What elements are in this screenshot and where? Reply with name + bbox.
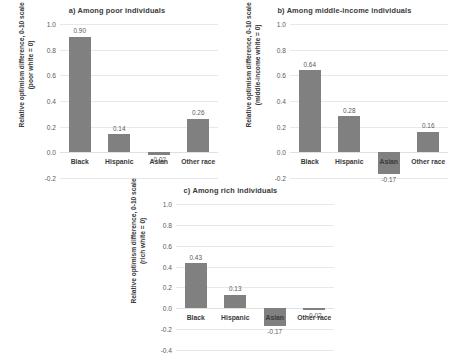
bar <box>108 134 130 152</box>
bar-value-label: 0.13 <box>229 285 241 292</box>
x-axis-category-label: Asian <box>379 158 398 165</box>
bar-value-label: 0.43 <box>190 254 202 261</box>
x-axis-category-label: Hispanic <box>105 158 133 165</box>
bar <box>338 116 360 152</box>
y-axis-tick-label: 0.2 <box>47 123 56 130</box>
x-axis-category-label: Black <box>187 314 205 321</box>
bar <box>224 295 246 309</box>
bar-value-label: 0.16 <box>422 122 434 129</box>
gridline: 0.8 <box>290 50 448 51</box>
x-axis-category-label: Black <box>301 158 319 165</box>
y-axis-tick-label: 0.2 <box>163 284 172 291</box>
gridline: 0.0 <box>290 152 448 153</box>
y-axis-tick-label: 0.0 <box>163 305 172 312</box>
x-axis-category-label: Other race <box>297 314 331 321</box>
y-axis-tick-label: 0.6 <box>163 242 172 249</box>
gridline: -0.4 <box>176 350 334 351</box>
y-axis-tick-label: 0.2 <box>277 123 286 130</box>
panel-c-y-axis-label-line1: Relative optimism difference, 0-10 scale <box>130 178 137 303</box>
bar <box>148 152 170 155</box>
y-axis-tick-label: 0.4 <box>163 263 172 270</box>
bar-value-label: 0.64 <box>304 61 316 68</box>
y-axis-tick-label: 0.8 <box>47 46 56 53</box>
y-axis-tick-label: 0.4 <box>277 98 286 105</box>
bar <box>303 308 325 310</box>
panel-a-y-axis-label-line2: (poor white = 0) <box>27 40 34 89</box>
bar <box>187 119 209 152</box>
panel-c-plot-area: 1.00.80.60.40.20.0-0.2-0.40.43Black0.13H… <box>176 204 334 350</box>
panel-c-y-axis-label: Relative optimism difference, 0-10 scale… <box>130 176 148 306</box>
y-axis-tick-label: 0.6 <box>47 72 56 79</box>
x-axis-category-label: Black <box>71 158 89 165</box>
bar <box>69 37 91 153</box>
chart-panel-b: b) Among middle-income individuals Relat… <box>238 6 451 186</box>
bar-value-label: 0.90 <box>74 27 86 34</box>
panel-a-plot-area: 1.00.80.60.40.20.0-0.20.90Black0.14Hispa… <box>60 24 218 178</box>
panel-b-title: b) Among middle-income individuals <box>238 6 451 15</box>
gridline: 0.8 <box>176 225 334 226</box>
bar-value-label: 0.14 <box>113 125 125 132</box>
panel-a-y-axis-label: Relative optimism difference, 0-10 scale… <box>18 0 36 130</box>
chart-panel-a: a) Among poor individuals Relative optim… <box>14 6 220 186</box>
y-axis-tick-label: -0.4 <box>161 347 172 354</box>
y-axis-tick-label: 0.8 <box>277 46 286 53</box>
x-axis-category-label: Asian <box>149 158 168 165</box>
gridline: 0.0 <box>60 152 218 153</box>
gridline: 1.0 <box>176 204 334 205</box>
panel-a-title: a) Among poor individuals <box>14 6 220 15</box>
y-axis-tick-label: 0.6 <box>277 72 286 79</box>
y-axis-tick-label: -0.2 <box>161 326 172 333</box>
gridline: 1.0 <box>60 24 218 25</box>
y-axis-tick-label: 1.0 <box>47 21 56 28</box>
chart-panel-c: c) Among rich individuals Relative optim… <box>123 186 338 361</box>
gridline: -0.2 <box>176 329 334 330</box>
x-axis-category-label: Other race <box>411 158 445 165</box>
x-axis-category-label: Hispanic <box>335 158 363 165</box>
bar-value-label: -0.17 <box>267 328 282 335</box>
bar <box>299 70 321 152</box>
x-axis-category-label: Asian <box>265 314 284 321</box>
x-axis-category-label: Other race <box>181 158 215 165</box>
y-axis-tick-label: 1.0 <box>163 201 172 208</box>
gridline: 0.6 <box>176 246 334 247</box>
y-axis-tick-label: -0.2 <box>45 175 56 182</box>
y-axis-tick-label: -0.2 <box>275 175 286 182</box>
panel-b-plot-area: 1.00.80.60.40.20.0-0.20.64Black0.28Hispa… <box>290 24 448 178</box>
panel-c-y-axis-label-line2: (rich white = 0) <box>139 218 146 264</box>
bar-value-label: 0.26 <box>192 109 204 116</box>
panel-b-y-axis-label: Relative optimism difference, 0-10 scale… <box>245 0 263 130</box>
panel-b-y-axis-label-line2: (middle-income white = 0) <box>254 25 261 106</box>
y-axis-tick-label: 0.8 <box>163 221 172 228</box>
y-axis-tick-label: 0.0 <box>277 149 286 156</box>
panel-a-y-axis-label-line1: Relative optimism difference, 0-10 scale <box>18 2 25 127</box>
bar-value-label: -0.17 <box>381 176 396 183</box>
gridline: 1.0 <box>290 24 448 25</box>
panel-c-title: c) Among rich individuals <box>123 186 338 195</box>
y-axis-tick-label: 0.4 <box>47 98 56 105</box>
panel-b-y-axis-label-line1: Relative optimism difference, 0-10 scale <box>245 2 252 127</box>
x-axis-category-label: Hispanic <box>221 314 249 321</box>
gridline: -0.2 <box>290 178 448 179</box>
bar-value-label: 0.28 <box>343 107 355 114</box>
bar <box>185 263 207 308</box>
y-axis-tick-label: 0.0 <box>47 149 56 156</box>
bar <box>417 132 439 153</box>
y-axis-tick-label: 1.0 <box>277 21 286 28</box>
